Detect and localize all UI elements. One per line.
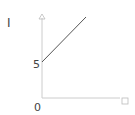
tick-label-5: 5 (33, 58, 40, 71)
series-line (42, 17, 86, 62)
y-axis-label: I (7, 16, 11, 30)
x-axis-square-icon (122, 98, 128, 104)
tick-label-0: 0 (34, 101, 41, 114)
chart: I 5 0 (0, 0, 135, 115)
